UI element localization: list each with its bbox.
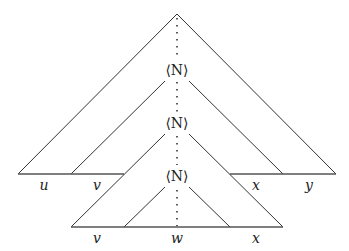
inner-tree [124, 187, 230, 227]
yield-label-u: u [39, 177, 48, 193]
pumped-tree-left-edge [71, 134, 165, 227]
yield-label-v-lower: v [93, 230, 101, 246]
middle-tree-left-edge [71, 81, 165, 174]
outer-tree-left-edge [18, 14, 177, 174]
outer-tree-right-edge [177, 14, 336, 174]
yield-label-w: w [171, 230, 183, 246]
node-label-n2: ⟨N⟩ [165, 115, 188, 131]
node-label-n1: ⟨N⟩ [165, 62, 188, 78]
pumped-tree-right-edge [189, 134, 283, 227]
node-label-n3: ⟨N⟩ [165, 168, 188, 184]
yield-label-v-upper: v [93, 177, 101, 193]
middle-tree-right-edge [189, 81, 283, 174]
yield-label-x-lower: x [252, 230, 260, 246]
inner-tree-left-edge [124, 187, 165, 227]
yield-label-y: y [304, 177, 314, 193]
yield-label-x-upper: x [252, 177, 260, 193]
derivation-tree-diagram: ⟨N⟩ ⟨N⟩ ⟨N⟩ u v x y v w x [0, 0, 349, 251]
inner-tree-right-edge [189, 187, 230, 227]
